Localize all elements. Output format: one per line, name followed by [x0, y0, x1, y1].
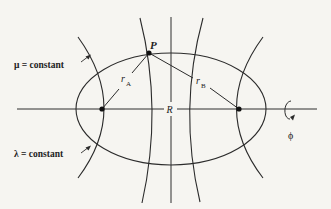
point-p-label: P: [150, 39, 157, 51]
internuclear-distance-label: R: [166, 104, 173, 115]
mu-constant-label: μ = constant: [14, 60, 65, 70]
svg-text:A: A: [126, 80, 131, 88]
phi-label: ϕ: [288, 130, 293, 141]
hyperbola-right-inner: [190, 18, 203, 202]
rotation-arrow-icon: [285, 101, 295, 121]
point-p: [146, 50, 151, 55]
r-a-label: r A: [121, 73, 131, 88]
elliptical-coordinates-diagram: P r A r B R μ = constant λ = constant ϕ: [0, 0, 331, 209]
svg-text:B: B: [201, 82, 206, 90]
nucleus-a-point: [99, 106, 104, 111]
lambda-constant-label: λ = constant: [14, 149, 64, 159]
mu-pointer-arrow-icon: [81, 55, 91, 63]
r-b-label: r B: [196, 75, 206, 90]
lambda-pointer-arrow-icon: [81, 146, 91, 154]
svg-text:r: r: [196, 75, 200, 86]
svg-text:r: r: [121, 73, 125, 84]
nucleus-b-point: [236, 106, 241, 111]
